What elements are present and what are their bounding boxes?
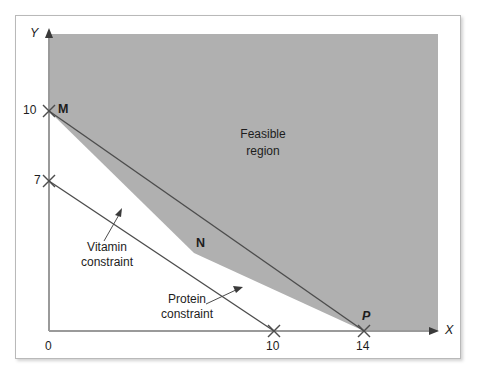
feasible-region-shape — [49, 34, 438, 331]
protein-constraint-line1: Protein — [144, 292, 230, 307]
point-label-N: N — [196, 237, 205, 250]
y-axis-label: Y — [30, 27, 38, 40]
vitamin-constraint-label: Vitamin constraint — [64, 240, 150, 270]
feasible-region-line2: region — [218, 143, 308, 160]
feasible-region-line1: Feasible — [218, 126, 308, 143]
point-label-P: P — [362, 310, 370, 323]
point-label-M: M — [58, 103, 68, 116]
y-tick-label-10: 10 — [23, 104, 36, 117]
protein-constraint-line2: constraint — [144, 307, 230, 322]
x-tick-label-14: 14 — [356, 340, 369, 353]
vitamin-constraint-line2: constraint — [64, 255, 150, 270]
vitamin-constraint-leader — [104, 208, 122, 241]
feasible-region-label: Feasible region — [218, 126, 308, 160]
vitamin-constraint-line1: Vitamin — [64, 240, 150, 255]
y-axis-arrowhead — [45, 28, 53, 38]
linear-programming-figure: Y X 10 7 0 10 14 M N P Feasible region V… — [0, 0, 477, 375]
figure-frame: Y X 10 7 0 10 14 M N P Feasible region V… — [15, 15, 461, 359]
plot-area — [16, 16, 460, 358]
origin-label: 0 — [45, 340, 52, 353]
x-axis-label: X — [445, 324, 453, 337]
x-tick-label-10: 10 — [266, 340, 279, 353]
y-tick-label-7: 7 — [34, 174, 41, 187]
protein-constraint-label: Protein constraint — [144, 292, 230, 322]
